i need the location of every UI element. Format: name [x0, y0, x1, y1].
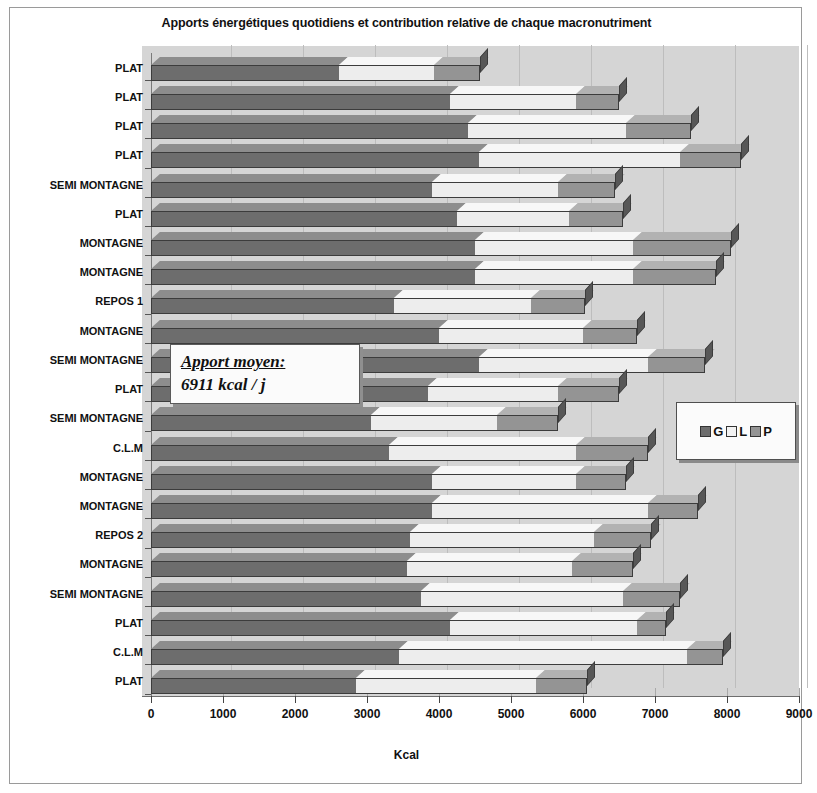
bar-stack[interactable]: [151, 591, 680, 607]
bar-segment-P[interactable]: [569, 211, 623, 227]
bar-segment-P[interactable]: [558, 386, 619, 402]
bar-segment-P[interactable]: [637, 620, 666, 636]
bar-stack[interactable]: [151, 269, 716, 285]
bar-segment-G[interactable]: [151, 503, 432, 519]
y-axis-label: SEMI MONTAGNE: [23, 355, 143, 366]
bar-segment-P[interactable]: [536, 678, 586, 694]
bar-segment-L[interactable]: [371, 415, 497, 431]
bar-stack[interactable]: [151, 678, 587, 694]
bar-stack[interactable]: [151, 65, 480, 81]
bar-segment-L[interactable]: [428, 386, 558, 402]
bar-segment-G[interactable]: [151, 561, 407, 577]
bar-segment-G[interactable]: [151, 328, 439, 344]
bar-segment-L[interactable]: [356, 678, 536, 694]
bar-segment-top-face: [151, 57, 348, 65]
bar-segment-G[interactable]: [151, 649, 399, 665]
bar-segment-L[interactable]: [410, 532, 594, 548]
bar-segment-L[interactable]: [399, 649, 687, 665]
bar-segment-G[interactable]: [151, 415, 371, 431]
bar-segment-G[interactable]: [151, 532, 410, 548]
bar-segment-L[interactable]: [394, 298, 531, 314]
bar-stack[interactable]: [151, 649, 723, 665]
bar-stack[interactable]: [151, 152, 741, 168]
bar-segment-L[interactable]: [450, 94, 576, 110]
bar-segment-G[interactable]: [151, 620, 450, 636]
bar-segment-P[interactable]: [583, 328, 637, 344]
bar-segment-P[interactable]: [434, 65, 480, 81]
x-axis-tick-label: 3000: [337, 707, 397, 721]
bar-segment-P[interactable]: [633, 269, 716, 285]
bar-stack[interactable]: [151, 415, 558, 431]
bar-segment-G[interactable]: [151, 182, 432, 198]
x-axis-tick: [583, 696, 584, 703]
bar-segment-L[interactable]: [432, 503, 648, 519]
annotation-line-2: 6911 kcal / j: [181, 374, 349, 397]
bar-segment-L[interactable]: [457, 211, 569, 227]
bar-segment-L[interactable]: [475, 269, 633, 285]
bar-segment-G[interactable]: [151, 298, 394, 314]
bar-segment-P[interactable]: [576, 94, 619, 110]
y-axis-label: PLAT: [23, 209, 143, 220]
bar-stack[interactable]: [151, 532, 651, 548]
bar-segment-top-face: [468, 115, 635, 123]
bar-segment-P[interactable]: [626, 123, 691, 139]
bar-segment-L[interactable]: [450, 620, 637, 636]
bar-stack[interactable]: [151, 123, 691, 139]
bar-stack[interactable]: [151, 328, 637, 344]
bar-segment-P[interactable]: [572, 561, 633, 577]
bar-segment-P[interactable]: [680, 152, 741, 168]
bar-segment-G[interactable]: [151, 94, 450, 110]
bar-stack[interactable]: [151, 503, 698, 519]
bar-segment-P[interactable]: [558, 182, 616, 198]
bar-segment-P[interactable]: [648, 503, 698, 519]
bar-segment-L[interactable]: [479, 357, 648, 373]
bar-stack[interactable]: [151, 94, 619, 110]
bar-segment-G[interactable]: [151, 678, 356, 694]
bar-segment-P[interactable]: [497, 415, 558, 431]
bar-segment-L[interactable]: [407, 561, 573, 577]
bar-segment-G[interactable]: [151, 152, 479, 168]
bar-segment-top-face: [151, 115, 477, 123]
bar-segment-P[interactable]: [531, 298, 585, 314]
bar-segment-G[interactable]: [151, 474, 432, 490]
bar-segment-G[interactable]: [151, 269, 475, 285]
bar-segment-G[interactable]: [151, 65, 339, 81]
bar-stack[interactable]: [151, 240, 731, 256]
bar-segment-top-face: [626, 115, 700, 123]
bar-segment-L[interactable]: [475, 240, 633, 256]
bar-stack[interactable]: [151, 182, 615, 198]
legend-swatch-G: [700, 426, 711, 437]
bar-segment-G[interactable]: [151, 240, 475, 256]
bar-stack[interactable]: [151, 298, 585, 314]
bar-segment-L[interactable]: [479, 152, 681, 168]
bar-segment-G[interactable]: [151, 445, 389, 461]
bar-segment-P[interactable]: [594, 532, 652, 548]
bar-segment-L[interactable]: [439, 328, 583, 344]
bar-segment-L[interactable]: [339, 65, 434, 81]
bar-segment-L[interactable]: [421, 591, 623, 607]
bar-segment-L[interactable]: [468, 123, 626, 139]
bar-segment-L[interactable]: [432, 474, 576, 490]
bar-segment-P[interactable]: [576, 474, 626, 490]
bar-segment-P[interactable]: [576, 445, 648, 461]
bar-segment-P[interactable]: [648, 357, 706, 373]
bar-segment-P[interactable]: [687, 649, 723, 665]
legend-item-L[interactable]: L: [726, 424, 747, 439]
bar-segment-P[interactable]: [633, 240, 730, 256]
legend-item-G[interactable]: G: [700, 424, 723, 439]
bar-stack[interactable]: [151, 211, 623, 227]
legend-item-P[interactable]: P: [750, 424, 772, 439]
x-axis-tick: [655, 696, 656, 703]
legend-swatch-P: [750, 426, 761, 437]
bar-stack[interactable]: [151, 445, 648, 461]
bar-segment-G[interactable]: [151, 123, 468, 139]
bar-segment-G[interactable]: [151, 591, 421, 607]
bar-stack[interactable]: [151, 474, 626, 490]
bar-segment-L[interactable]: [389, 445, 576, 461]
x-axis-tick-label: 9000: [769, 707, 817, 721]
x-axis-tick-label: 7000: [625, 707, 685, 721]
bar-stack[interactable]: [151, 620, 666, 636]
bar-stack[interactable]: [151, 561, 633, 577]
bar-segment-L[interactable]: [432, 182, 558, 198]
bar-segment-G[interactable]: [151, 211, 457, 227]
